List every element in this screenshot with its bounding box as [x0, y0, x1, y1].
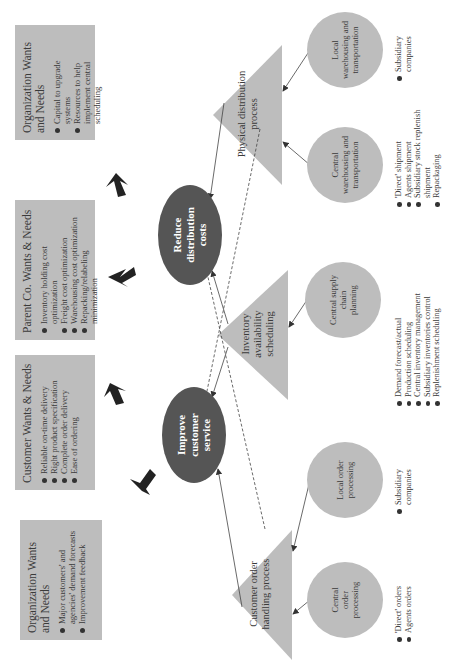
- org-wants-box-right: Organization Wants and Needs Capital to …: [15, 25, 95, 140]
- box-title: Parent Co. Wants & Needs: [21, 207, 34, 333]
- box-item: Resources to help implement central sche…: [72, 32, 102, 133]
- box-item: Improvement feedback: [77, 527, 87, 633]
- subprocess-local-order: Local order processing: [307, 442, 383, 518]
- supply-chain-items: Demand forecast/actual Production schedu…: [394, 261, 442, 406]
- box-title: Organization Wants and Needs: [21, 32, 47, 133]
- goal-improve-customer-service: Improve customer service: [162, 387, 226, 483]
- box-item: Warehousing cost optimization: [69, 207, 79, 333]
- subprocess-central-order: Central order processing: [307, 562, 383, 638]
- goal-reduce-distribution-costs: Reduce distribution costs: [158, 185, 222, 285]
- box-item: Inventory holding cost optimization: [39, 207, 59, 333]
- box-title: Customer Wants & Needs: [21, 362, 34, 483]
- box-item: Ease of ordering: [69, 362, 79, 483]
- central-warehousing-items: 'Direct' shipment Agents shipment Subsid…: [394, 107, 442, 207]
- box-item: Freight cost optimization: [59, 207, 69, 333]
- block-arrows: [104, 173, 156, 495]
- box-item: Right product specification: [49, 362, 59, 483]
- box-item: Reliable on-time delivery: [39, 362, 49, 483]
- central-order-items: 'Direct' orders Agents orders: [394, 552, 413, 642]
- box-item: Capital to upgrade systems: [52, 32, 72, 133]
- process-physical-distribution: Physical distribution process: [236, 69, 260, 159]
- process-diagram: Organization Wants and Needs Major custo…: [0, 0, 458, 669]
- box-item: Major customers' and agencies' demand fo…: [57, 527, 77, 633]
- customer-wants-box: Customer Wants & Needs Reliable on-time …: [15, 355, 95, 490]
- org-wants-box-left: Organization Wants and Needs Major custo…: [20, 520, 102, 640]
- box-item: Repacking/relabeling minimization: [79, 207, 99, 333]
- box-item: Complete order delivery: [59, 362, 69, 483]
- local-order-items: Subsidiary companies: [394, 444, 413, 514]
- process-inventory-availability: Inventory availability scheduling: [240, 289, 276, 379]
- local-warehousing-items: Subsidiary companies: [394, 11, 413, 81]
- parent-co-wants-box: Parent Co. Wants & Needs Inventory holdi…: [15, 200, 95, 340]
- subprocess-central-warehousing: Central warehousing and transportation: [307, 127, 383, 203]
- box-title: Organization Wants and Needs: [26, 527, 52, 633]
- process-customer-order-handling: Customer order handling process: [248, 549, 272, 639]
- subprocess-central-supply-chain: Central supply chain planning: [305, 262, 381, 338]
- subprocess-local-warehousing: Local warehousing and transportation: [307, 12, 383, 88]
